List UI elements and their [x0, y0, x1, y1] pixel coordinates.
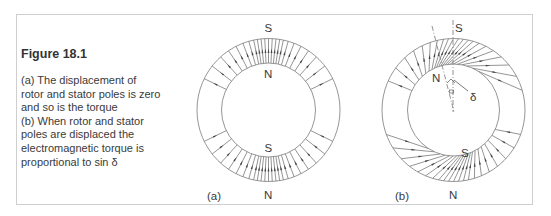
rotor-circle [408, 64, 500, 156]
flux-arrow-icon [255, 166, 257, 170]
flux-arrow-icon [259, 49, 261, 53]
machine-diagrams: S N S N (a) δ S N S N (b) [0, 0, 551, 216]
flux-arrow-icon [241, 55, 244, 59]
flux-arrow-icon [486, 65, 490, 67]
flux-arrow-icon [417, 61, 419, 65]
flux-arrow-icon [498, 79, 502, 82]
flux-lines-a [204, 39, 333, 182]
flux-arrow-icon [320, 135, 324, 138]
flux-arrow-icon [294, 55, 297, 59]
rotor-pole-bottom-label: S [265, 142, 273, 154]
flux-arrow-icon [485, 157, 487, 161]
flux-arrow-icon [506, 131, 510, 133]
angle-arc [447, 79, 455, 83]
flux-arrow-icon [279, 50, 281, 54]
flux-arrow-icon [289, 163, 291, 167]
rotor-pole-top-label: N [432, 72, 440, 84]
flux-arrow-icon [474, 162, 476, 166]
flux-arrow-icon [469, 164, 471, 168]
flux-arrow-icon [294, 161, 297, 165]
flux-arrow-icon [425, 160, 429, 162]
flux-arrow-icon [277, 49, 279, 53]
flux-arrow-icon [213, 83, 217, 86]
flux-arrow-icon [473, 57, 477, 59]
rotor-pole-top-label: N [264, 68, 272, 80]
flux-arrow-icon [405, 140, 409, 142]
flux-arrow-icon [283, 51, 285, 55]
flux-arrow-icon [277, 166, 279, 170]
flux-arrow-icon [213, 135, 217, 138]
flux-arrow-icon [433, 53, 435, 57]
flux-arrow-icon [501, 141, 505, 144]
flux-arrow-icon [462, 165, 464, 169]
flux-arrow-icon [240, 161, 243, 165]
diagram-a-label: (a) [207, 190, 221, 202]
flux-arrow-icon [441, 51, 444, 55]
flux-arrow-icon [252, 51, 254, 55]
rotor-pole-bottom-label: S [461, 147, 469, 159]
flux-arrow-icon [268, 49, 270, 53]
flux-arrow-icon [288, 53, 290, 57]
flux-arrow-icon [458, 166, 461, 170]
diagram-a: S N S N (a) [197, 22, 340, 202]
delta-leader-line [454, 80, 468, 91]
stator-pole-bottom-label: N [264, 189, 272, 201]
flux-arrow-icon [251, 165, 253, 169]
stator-pole-top-label: S [455, 22, 463, 34]
diagram-b-label: (b) [395, 190, 409, 202]
flux-arrow-icon [268, 167, 270, 171]
flux-arrow-icon [479, 60, 483, 62]
flux-arrow-icon [258, 166, 260, 170]
flux-arrow-icon [246, 53, 248, 57]
flux-arrow-icon [492, 71, 496, 73]
flux-lines-b [386, 39, 522, 182]
flux-arrow-icon [256, 50, 258, 54]
flux-arrow-icon [431, 163, 435, 166]
flux-arrow-icon [423, 57, 425, 61]
flux-arrow-icon [467, 54, 471, 57]
flux-arrow-icon [246, 163, 248, 167]
stator-outer-circle [382, 39, 525, 182]
flux-arrow-icon [280, 166, 282, 170]
flux-arrow-icon [319, 83, 323, 86]
delta-symbol: δ [470, 91, 476, 103]
flux-arrow-icon [284, 165, 286, 169]
stator-pole-top-label: S [265, 22, 273, 34]
flux-arrow-icon [444, 51, 447, 55]
diagram-b: δ S N S N (b) [382, 20, 525, 202]
flux-arrow-icon [466, 165, 468, 169]
stator-pole-bottom-label: N [449, 189, 457, 201]
flux-arrow-icon [398, 85, 402, 87]
